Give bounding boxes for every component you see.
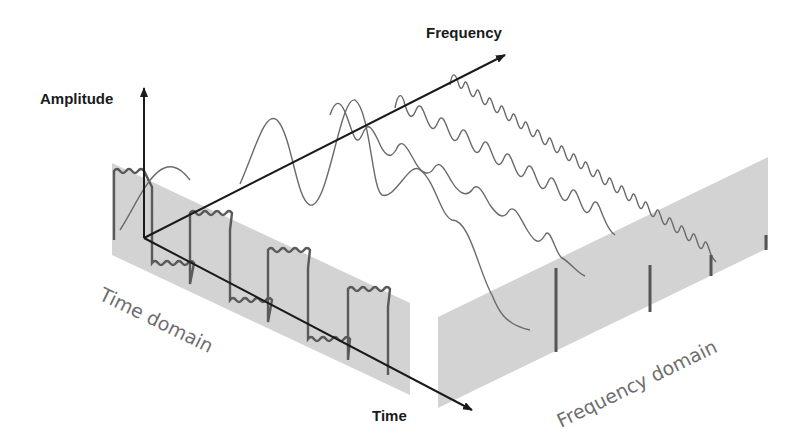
frequency-domain-panel <box>438 157 768 408</box>
frequency-axis <box>144 55 505 238</box>
amplitude-label: Amplitude <box>40 90 113 107</box>
fourier-diagram: Amplitude Frequency Time Time domain Fre… <box>0 0 806 439</box>
sine-component-2 <box>330 103 585 276</box>
frequency-label: Frequency <box>426 24 503 41</box>
time-domain-panel <box>112 163 410 395</box>
time-label: Time <box>372 407 407 424</box>
frequency-domain-label: Frequency domain <box>553 335 720 432</box>
sine-component-3 <box>395 96 615 235</box>
